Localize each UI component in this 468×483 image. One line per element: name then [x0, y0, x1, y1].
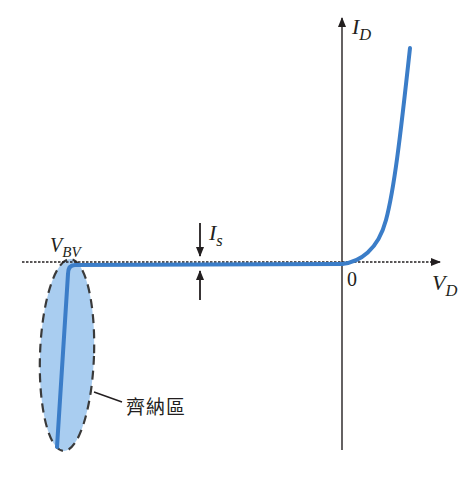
x-axis-label: VD — [432, 270, 457, 301]
breakdown-label-sub: BV — [62, 244, 80, 260]
saturation-label-sub: s — [216, 231, 222, 250]
y-axis-label: ID — [352, 14, 371, 45]
breakdown-voltage-label: VBV — [50, 234, 81, 261]
zener-region-label: 齊納區 — [126, 392, 186, 419]
zener-leader-line — [94, 392, 122, 402]
origin-label: 0 — [347, 268, 357, 291]
saturation-current-label: Is — [209, 220, 223, 251]
x-axis-label-sub: D — [445, 281, 457, 300]
y-axis-label-sub: D — [359, 25, 371, 44]
breakdown-label-main: V — [50, 234, 62, 256]
x-axis-label-main: V — [432, 270, 445, 295]
forward-bias-curve — [342, 48, 410, 264]
